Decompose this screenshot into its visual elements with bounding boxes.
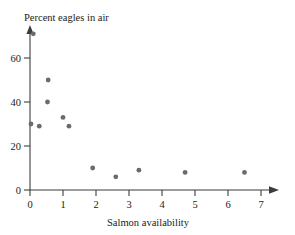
y-ticklabel-20: 20 [11, 141, 22, 152]
x-ticklabel-5: 5 [192, 199, 197, 210]
data-points-layer [29, 31, 247, 179]
x-axis: 0 1 2 3 4 5 6 7 Salmon availability [27, 186, 279, 228]
data-point [31, 31, 36, 36]
data-point [242, 170, 247, 175]
x-axis-ticks [30, 190, 261, 196]
y-axis-tick-labels: 60 40 20 0 [11, 53, 22, 196]
x-axis-tick-labels: 0 1 2 3 4 5 6 7 [27, 199, 263, 210]
data-point [45, 100, 50, 105]
scatter-plot-figure: Percent eagles in air 60 40 20 0 [0, 0, 295, 235]
x-ticklabel-4: 4 [159, 199, 165, 210]
chart-canvas: Percent eagles in air 60 40 20 0 [0, 0, 295, 235]
data-point [29, 122, 34, 127]
y-ticklabel-0: 0 [16, 185, 21, 196]
x-axis-arrowhead [269, 186, 279, 194]
x-ticklabel-6: 6 [225, 199, 230, 210]
data-point [61, 115, 66, 120]
x-ticklabel-7: 7 [258, 199, 263, 210]
y-ticklabel-40: 40 [11, 97, 22, 108]
x-ticklabel-1: 1 [60, 199, 65, 210]
data-point [37, 124, 42, 129]
data-point [46, 78, 51, 83]
chart-title: Percent eagles in air [24, 12, 109, 23]
y-ticklabel-60: 60 [11, 53, 22, 64]
y-axis: 60 40 20 0 [11, 25, 34, 196]
data-point [67, 124, 72, 129]
x-ticklabel-3: 3 [126, 199, 131, 210]
x-axis-title: Salmon availability [107, 217, 190, 228]
x-ticklabel-0: 0 [27, 199, 32, 210]
data-point [183, 170, 188, 175]
data-point [113, 174, 118, 179]
data-point [137, 168, 142, 173]
data-point [90, 166, 95, 171]
x-ticklabel-2: 2 [93, 199, 98, 210]
